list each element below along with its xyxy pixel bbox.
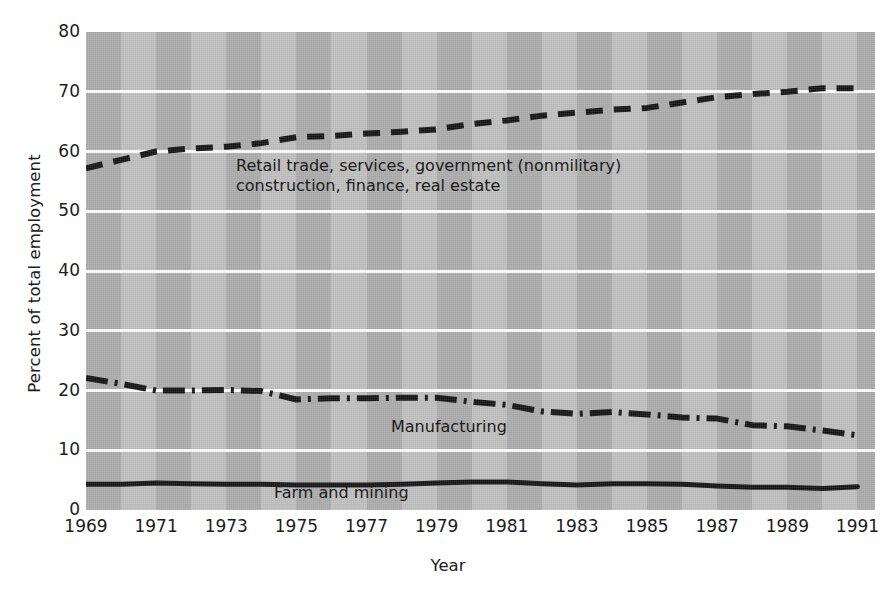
x-tick-1983: 1983 bbox=[542, 518, 612, 535]
x-tick-1981: 1981 bbox=[472, 518, 542, 535]
x-tick-1969: 1969 bbox=[51, 518, 121, 535]
x-tick-1989: 1989 bbox=[752, 518, 822, 535]
x-axis-label: Year bbox=[0, 556, 896, 575]
x-tick-1985: 1985 bbox=[612, 518, 682, 535]
x-tick-1979: 1979 bbox=[402, 518, 472, 535]
x-tick-1977: 1977 bbox=[332, 518, 402, 535]
employment-share-line-chart: Percent of total employment 010203040506… bbox=[0, 0, 896, 591]
x-axis-tick-labels: 1969197119731975197719791981198319851987… bbox=[0, 0, 896, 591]
x-tick-1987: 1987 bbox=[682, 518, 752, 535]
x-tick-1991: 1991 bbox=[822, 518, 892, 535]
x-tick-1975: 1975 bbox=[261, 518, 331, 535]
x-tick-1971: 1971 bbox=[121, 518, 191, 535]
x-tick-1973: 1973 bbox=[191, 518, 261, 535]
